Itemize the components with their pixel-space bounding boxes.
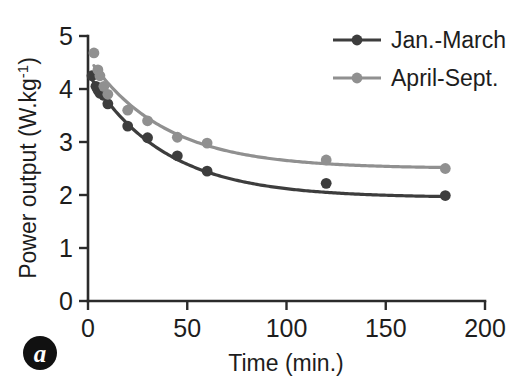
x-tick-label: 100 (266, 314, 308, 342)
data-point-marker (142, 115, 153, 126)
data-point-marker (142, 132, 153, 143)
y-axis-title-base: Power output (W.kg (15, 78, 41, 279)
legend-swatch-marker (352, 73, 363, 84)
data-point-marker (102, 89, 113, 100)
y-tick-label: 0 (59, 287, 73, 315)
data-point-marker (321, 155, 332, 166)
y-axis-title-superscript: -1 (14, 65, 31, 78)
legend: Jan.-MarchApril-Sept. (333, 27, 506, 91)
x-tick-label: 150 (365, 314, 407, 342)
panel-letter-badge: a (23, 336, 57, 370)
data-point-marker (122, 121, 133, 132)
panel-badge-letter: a (34, 340, 47, 367)
y-tick-label: 2 (59, 181, 73, 209)
data-point-marker (172, 150, 183, 161)
data-point-marker (172, 132, 183, 143)
data-point-marker (440, 190, 451, 201)
data-point-marker (321, 178, 332, 189)
legend-label: April-Sept. (391, 65, 498, 91)
data-point-marker (89, 48, 100, 59)
y-ticks-group: 012345 (59, 22, 88, 315)
x-axis-title: Time (min.) (228, 350, 343, 376)
y-tick-label: 3 (59, 128, 73, 156)
data-point-marker (202, 138, 213, 149)
x-tick-label: 200 (464, 314, 506, 342)
y-tick-label: 4 (59, 75, 73, 103)
x-tick-label: 50 (173, 314, 201, 342)
power-output-decay-chart: 012345 050100150200 Time (min.) Power ou… (0, 0, 527, 381)
data-point-marker (440, 163, 451, 174)
y-axis-title: Power output (W.kg-1) (14, 57, 41, 279)
data-point-marker (95, 70, 106, 81)
legend-label: Jan.-March (391, 27, 506, 53)
x-tick-label: 0 (81, 314, 95, 342)
y-tick-label: 1 (59, 234, 73, 262)
svg-text:Power output (W.kg-1): Power output (W.kg-1) (14, 57, 41, 279)
figure-panel-a: 012345 050100150200 Time (min.) Power ou… (0, 0, 527, 381)
data-point-marker (122, 105, 133, 116)
x-ticks-group: 050100150200 (81, 301, 506, 342)
data-point-marker (102, 98, 113, 109)
data-point-marker (202, 166, 213, 177)
y-axis-title-tail: ) (15, 57, 41, 65)
legend-swatch-marker (352, 35, 363, 46)
y-tick-label: 5 (59, 22, 73, 50)
